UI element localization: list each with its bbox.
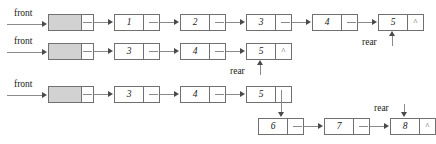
row-3-wrap-line [281, 90, 282, 114]
row-1-rear-line [392, 36, 393, 46]
row-1-node-5-ptr: ^ [408, 15, 423, 30]
row-2-node-1-data: 3 [115, 44, 144, 59]
row-2-front-line [7, 52, 43, 53]
row-3-node-1-data: 3 [115, 87, 144, 102]
row-3-link-1-line [160, 94, 175, 95]
row-3-link-1-stub [149, 94, 158, 95]
row-3-node-6-ptr: ^ [420, 119, 435, 134]
row-3-link-4-line [304, 126, 319, 127]
row-2-rear-line [260, 65, 261, 75]
row-3-link-0-arrowhead [108, 91, 113, 97]
row-1-link-1-arrowhead [174, 19, 179, 25]
row-1-link-3-stub [281, 22, 290, 23]
row-2-node-3: 5 ^ [246, 43, 292, 60]
row-3-node-2-data: 4 [181, 87, 210, 102]
queue-linked-list-diagram: front 1 2 3 4 5 ^ rear [0, 0, 436, 144]
row-1-node-5-data: 5 [379, 15, 408, 30]
row-3-front-arrowhead [42, 92, 47, 98]
row-1-rear-label: rear [362, 38, 377, 48]
row-1-node-2-data: 2 [181, 15, 210, 30]
row-1-front-arrowhead [42, 21, 47, 27]
row-3-link-2-stub [215, 94, 224, 95]
row-2-rear-arrowhead [257, 60, 263, 65]
row-1-link-1-stub [149, 22, 158, 23]
row-1-front-line [7, 24, 43, 25]
row-3-link-4-stub [293, 126, 302, 127]
row-1-link-2-stub [215, 22, 224, 23]
row-1-link-3-arrowhead [306, 19, 311, 25]
row-1-link-1-line [160, 22, 175, 23]
row-1-link-2-line [226, 22, 241, 23]
row-2-link-0-line [94, 51, 109, 52]
row-1-node-3-data: 3 [247, 15, 276, 30]
row-3-front-label: front [14, 80, 32, 90]
row-2-link-2-line [226, 51, 241, 52]
row-3-link-5-line [370, 126, 385, 127]
row-3-front-line [7, 95, 43, 96]
row-2-node-3-data: 5 [247, 44, 276, 59]
row-2-node-header-data [49, 44, 82, 59]
row-1-node-5: 5 ^ [378, 14, 424, 31]
row-3-link-5-arrowhead [384, 123, 389, 129]
row-3-link-2-arrowhead [240, 91, 245, 97]
row-2-link-0-arrowhead [108, 48, 113, 54]
row-2-link-0-stub [83, 51, 92, 52]
row-3-link-1-arrowhead [174, 91, 179, 97]
row-3-rear-arrowhead [401, 112, 407, 117]
row-2-link-2-arrowhead [240, 48, 245, 54]
row-3-node-5-data: 7 [325, 119, 354, 134]
row-3-link-5-stub [359, 126, 368, 127]
row-1-link-0-arrowhead [108, 19, 113, 25]
row-3-wrap-arrowhead [278, 112, 284, 117]
row-2-front-arrowhead [42, 49, 47, 55]
row-2-node-2-data: 4 [181, 44, 210, 59]
row-2-link-1-arrowhead [174, 48, 179, 54]
row-3-node-3-data: 5 [247, 87, 276, 102]
row-1-link-4-stub [347, 22, 356, 23]
row-2-front-label: front [14, 37, 32, 47]
row-2-link-1-stub [149, 51, 158, 52]
row-1-link-4-line [358, 22, 373, 23]
row-3-rear-label: rear [374, 104, 389, 114]
row-1-front-label: front [14, 9, 32, 19]
row-1-link-0-line [94, 22, 109, 23]
row-2-link-1-line [160, 51, 175, 52]
row-1-link-2-arrowhead [240, 19, 245, 25]
row-3-link-0-line [94, 94, 109, 95]
row-2-node-3-ptr: ^ [276, 44, 291, 59]
row-2-link-2-stub [215, 51, 224, 52]
row-3-link-0-stub [83, 94, 92, 95]
row-2-rear-label: rear [230, 67, 245, 77]
row-1-node-4-data: 4 [313, 15, 342, 30]
row-1-link-0-stub [83, 22, 92, 23]
row-3-node-6-data: 8 [391, 119, 420, 134]
row-1-link-4-arrowhead [372, 19, 377, 25]
row-1-rear-arrowhead [389, 31, 395, 36]
row-3-node-3-ptr [276, 87, 291, 102]
row-3-node-header-data [49, 87, 82, 102]
row-3-link-4-arrowhead [318, 123, 323, 129]
row-3-node-3: 5 [246, 86, 292, 103]
row-1-node-header-data [49, 15, 82, 30]
row-3-link-2-line [226, 94, 241, 95]
row-1-node-1-data: 1 [115, 15, 144, 30]
row-3-node-6: 8 ^ [390, 118, 436, 135]
row-1-link-3-line [292, 22, 307, 23]
row-3-node-4-data: 6 [259, 119, 288, 134]
